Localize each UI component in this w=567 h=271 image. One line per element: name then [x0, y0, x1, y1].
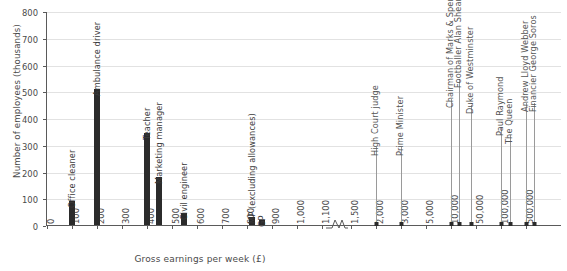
y-tick-label: 0 [12, 222, 38, 232]
bar-label: Office cleaner [67, 150, 77, 208]
marker-label: High Court judge [370, 85, 380, 156]
marker-dot [375, 222, 379, 226]
marker-stem [471, 105, 472, 225]
bar-label: Ambulance driver [92, 22, 102, 96]
marker-label: Financier George Soros [528, 15, 538, 112]
x-tick-label: 300 [121, 208, 131, 224]
x-tick-label: 50,000 [475, 195, 485, 224]
y-tick-label: 100 [12, 195, 38, 205]
x-tick-mark [72, 226, 73, 229]
marker-dot [458, 222, 462, 226]
x-tick-mark [147, 226, 148, 229]
marker-stem [459, 79, 460, 225]
marker-stem [451, 99, 452, 225]
marker-dot [450, 222, 454, 226]
gridline [47, 39, 561, 40]
bar [94, 89, 100, 225]
y-tick-mark [43, 173, 46, 174]
marker-dot [400, 222, 404, 226]
x-tick-mark [426, 226, 427, 229]
marker-label: Prime Minister [395, 96, 405, 156]
y-tick-label: 400 [12, 115, 38, 125]
y-tick-mark [43, 39, 46, 40]
marker-stem [534, 103, 535, 225]
x-tick-mark [122, 226, 123, 229]
x-tick-label: 700 [221, 208, 231, 224]
plot-area: 0100200300400500600700800 01002003004005… [46, 12, 561, 226]
x-tick-label: 900 [271, 208, 281, 224]
x-tick-mark [197, 226, 198, 229]
gridline [47, 173, 561, 174]
bar-label: Civil engineer [179, 162, 189, 220]
y-tick-mark [43, 12, 46, 13]
gridline [47, 119, 561, 120]
x-tick-label: 5,000 [425, 200, 435, 224]
x-tick-mark [526, 226, 527, 229]
x-tick-label: 1,000 [296, 200, 306, 224]
marker-stem [526, 103, 527, 225]
x-tick-mark [47, 226, 48, 229]
bar-label: Teacher [142, 107, 152, 139]
x-tick-mark [351, 226, 352, 229]
marker-stem [501, 127, 502, 225]
bar-label: GP [257, 215, 267, 226]
y-tick-label: 600 [12, 62, 38, 72]
marker-stem [510, 135, 511, 225]
y-tick-label: 700 [12, 35, 38, 45]
y-tick-mark [43, 226, 46, 227]
x-tick-mark [401, 226, 402, 229]
gridline [47, 146, 561, 147]
marker-stem [401, 147, 402, 225]
x-tick-mark [172, 226, 173, 229]
x-tick-mark [376, 226, 377, 229]
x-tick-mark [451, 226, 452, 229]
y-tick-mark [43, 146, 46, 147]
y-tick-label: 300 [12, 142, 38, 152]
x-tick-label: 1,500 [350, 200, 360, 224]
marker-dot [525, 222, 529, 226]
y-tick-mark [43, 199, 46, 200]
marker-dot [470, 222, 474, 226]
gridline [47, 92, 561, 93]
bar [144, 133, 150, 225]
y-tick-mark [43, 119, 46, 120]
x-tick-mark [501, 226, 502, 229]
axis-break-icon [326, 217, 348, 231]
x-axis-title: Gross earnings per week (£) [80, 254, 320, 264]
x-tick-mark [272, 226, 273, 229]
marker-label: The Queen [504, 98, 514, 144]
marker-stem [376, 147, 377, 225]
x-tick-mark [297, 226, 298, 229]
marker-dot [533, 222, 537, 226]
y-tick-mark [43, 66, 46, 67]
x-tick-mark [322, 226, 323, 229]
chart-container: Number of employees (thousands) Gross ea… [0, 0, 567, 271]
gridline [47, 66, 561, 67]
marker-label: Footballer Alan Shearer (excluding bonus… [453, 0, 463, 88]
marker-dot [509, 222, 513, 226]
y-tick-label: 800 [12, 8, 38, 18]
x-axis-line [46, 225, 561, 226]
gridline [47, 12, 561, 13]
y-tick-mark [43, 92, 46, 93]
x-tick-mark [247, 226, 248, 229]
marker-label: Duke of Westminster [465, 27, 475, 114]
x-tick-mark [97, 226, 98, 229]
bar-label: MP (excluding allowances) [247, 113, 257, 224]
x-tick-mark [222, 226, 223, 229]
bar [156, 177, 162, 225]
x-tick-label: 0 [46, 219, 56, 224]
bar-label: Marketing manager [154, 102, 164, 184]
x-tick-mark [476, 226, 477, 229]
x-tick-label: 600 [196, 208, 206, 224]
y-tick-label: 200 [12, 169, 38, 179]
marker-dot [500, 222, 504, 226]
y-tick-label: 500 [12, 88, 38, 98]
